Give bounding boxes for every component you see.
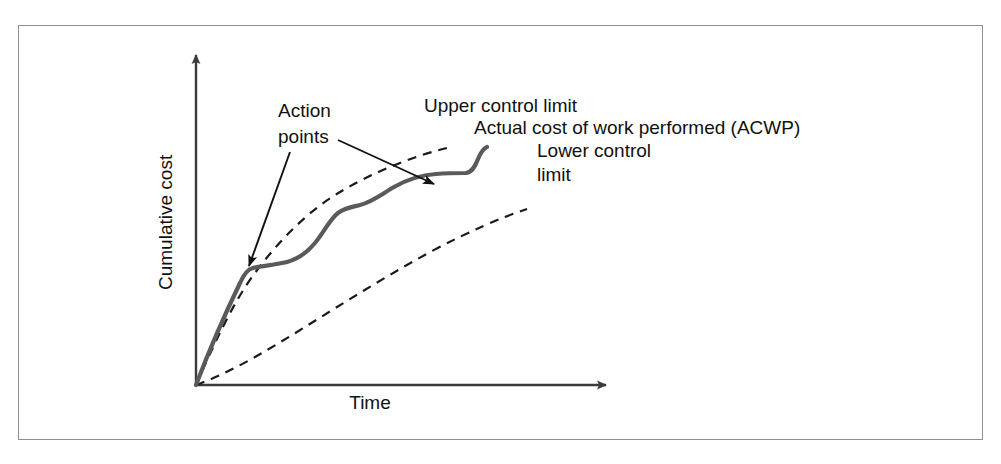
lower-control-limit-label-line1: Lower control <box>537 140 651 161</box>
acwp-curve <box>196 147 487 385</box>
upper-control-limit-label: Upper control limit <box>424 95 578 116</box>
y-axis-title: Cumulative cost <box>155 154 176 290</box>
cost-control-chart: Cumulative cost Time Action points Upper… <box>0 0 1001 464</box>
action-point-arrow-right <box>338 140 434 184</box>
acwp-label: Actual cost of work performed (ACWP) <box>474 117 800 138</box>
action-point-arrow-left <box>249 152 290 266</box>
action-points-label-line1: Action <box>278 100 331 121</box>
figure-page: Cumulative cost Time Action points Upper… <box>0 0 1001 464</box>
lower-control-limit-curve <box>196 209 527 385</box>
upper-control-limit-curve <box>196 148 447 385</box>
chart-svg: Cumulative cost Time Action points Upper… <box>0 0 1001 464</box>
action-points-label-line2: points <box>278 126 329 147</box>
x-axis-title: Time <box>349 392 391 413</box>
lower-control-limit-label-line2: limit <box>537 164 571 185</box>
